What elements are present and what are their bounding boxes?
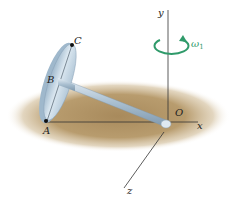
- z-axis-label: z: [127, 186, 132, 196]
- point-a-label: A: [43, 126, 50, 136]
- x-axis-label: x: [197, 121, 203, 131]
- diagram-svg: [0, 0, 229, 202]
- point-o-label: O: [175, 108, 183, 118]
- omega-subscript: 1: [199, 43, 203, 51]
- y-axis-label: y: [158, 8, 164, 18]
- ground-surface: [6, 80, 229, 152]
- diagram-canvas: C B A O x y z ω1: [0, 0, 229, 202]
- point-c-label: C: [74, 36, 82, 46]
- omega-symbol: ω: [191, 38, 199, 49]
- point-a-marker: [44, 119, 48, 123]
- omega-label: ω1: [191, 39, 204, 51]
- angular-velocity-arrow-icon: [155, 35, 189, 54]
- point-b-label: B: [47, 75, 54, 85]
